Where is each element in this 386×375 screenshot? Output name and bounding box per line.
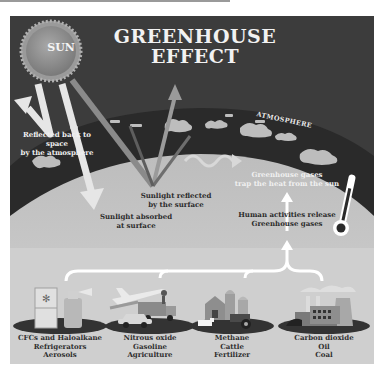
reflected-back-line-1: Reflected back to space: [12, 130, 102, 148]
sunlight-absorbed-line-1: Sunlight absorbed: [96, 212, 176, 221]
gases-trap-line-1: Greenhouse gases: [232, 170, 342, 179]
source-item: Aerosols: [15, 351, 105, 360]
source-item: Fertilizer: [187, 351, 277, 360]
sunlight-reflected-label: Sunlight reflected by the surface: [136, 191, 216, 209]
title-line-2: EFFECT: [110, 46, 280, 66]
source-nitrous-oxide: Nitrous oxide Gasoline Agriculture: [105, 334, 195, 360]
sunlight-absorbed-line-2: at surface: [96, 221, 176, 230]
gases-trap-line-2: trap the heat from the sun: [232, 179, 342, 188]
source-item: Agriculture: [105, 351, 195, 360]
greenhouse-effect-infographic: ✻: [10, 16, 374, 364]
reflected-back-label: Reflected back to space by the atmospher…: [12, 130, 102, 157]
human-activities-line-2: Greenhouse gases: [232, 219, 342, 228]
sunlight-absorbed-label: Sunlight absorbed at surface: [96, 212, 176, 230]
diagram-graphics: ✻: [10, 16, 374, 364]
source-carbon-dioxide: Carbon dioxide Oil Coal: [279, 334, 369, 360]
sun-label: SUN: [41, 41, 81, 54]
human-activities-label: Human activities release Greenhouse gase…: [232, 210, 342, 228]
source-cfc: CFCs and Haloalkane Refrigerators Aeroso…: [15, 334, 105, 360]
source-item: Coal: [279, 351, 369, 360]
svg-text:✻: ✻: [42, 293, 50, 304]
reflected-back-line-2: by the atmosphere: [12, 148, 102, 157]
page-title: GREENHOUSE EFFECT: [110, 26, 280, 66]
sunlight-reflected-line-1: Sunlight reflected: [136, 191, 216, 200]
gases-trap-label: Greenhouse gases trap the heat from the …: [232, 170, 342, 188]
human-activities-line-1: Human activities release: [232, 210, 342, 219]
sunlight-reflected-line-2: by the surface: [136, 200, 216, 209]
title-line-1: GREENHOUSE: [110, 26, 280, 46]
top-rule: [0, 0, 230, 2]
source-methane: Methane Cattle Fertilizer: [187, 334, 277, 360]
